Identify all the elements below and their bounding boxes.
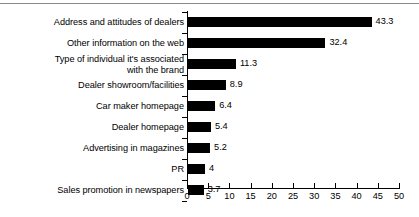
y-axis-tick [182, 117, 187, 118]
category-label: Car maker homepage [4, 101, 184, 112]
x-axis-tick [251, 183, 252, 188]
bar [188, 101, 215, 111]
bar [188, 38, 325, 48]
bar-value-label: 11.3 [240, 58, 257, 69]
y-axis-tick [182, 138, 187, 139]
y-axis-tick [182, 96, 187, 97]
category-label: Advertising in magazines [4, 143, 184, 154]
bar [188, 122, 211, 132]
bar-row: Other information on the web32.4 [0, 33, 419, 54]
bar-row: Dealer homepage5.4 [0, 117, 419, 138]
x-axis-tick [272, 183, 273, 188]
bar-row: Address and attitudes of dealers43.3 [0, 12, 419, 33]
category-label: Other information on the web [4, 38, 184, 49]
bar-value-label: 8.9 [230, 79, 243, 90]
plot-area: Address and attitudes of dealers43.3Othe… [0, 0, 419, 217]
category-label: Dealer showroom/facilities [4, 80, 184, 91]
bar-row: Dealer showroom/facilities8.9 [0, 75, 419, 96]
bar-row: Advertising in magazines5.2 [0, 138, 419, 159]
x-axis-tick [229, 183, 230, 188]
x-axis-tick [378, 183, 379, 188]
bar [188, 59, 236, 69]
y-axis-tick [182, 33, 187, 34]
bar-value-label: 4 [209, 163, 214, 174]
bar-value-label: 6.4 [219, 100, 232, 111]
bar-value-label: 43.3 [376, 16, 394, 27]
x-axis-tick-label: 50 [387, 191, 411, 202]
x-axis-tick [187, 183, 188, 188]
y-axis-tick [182, 12, 187, 13]
y-axis-tick [182, 54, 187, 55]
x-axis-tick [335, 183, 336, 188]
y-axis-tick [182, 75, 187, 76]
bar [188, 17, 372, 27]
bar-row: PR4 [0, 159, 419, 180]
category-label: Type of individual it's associated with … [4, 54, 184, 75]
bar-row: Type of individual it's associated with … [0, 54, 419, 75]
x-axis-tick [357, 183, 358, 188]
bar-value-label: 5.2 [214, 142, 227, 153]
category-label: Dealer homepage [4, 122, 184, 133]
category-label: Address and attitudes of dealers [4, 17, 184, 28]
x-axis-tick [208, 183, 209, 188]
bar [188, 164, 205, 174]
bar-value-label: 32.4 [329, 37, 347, 48]
x-axis-tick [314, 183, 315, 188]
bar [188, 143, 210, 153]
category-label: Sales promotion in newspapers [4, 185, 184, 196]
bar-row: Car maker homepage6.4 [0, 96, 419, 117]
bar [188, 80, 226, 90]
bar-value-label: 5.4 [215, 121, 228, 132]
bar-chart-figure: Address and attitudes of dealers43.3Othe… [0, 0, 419, 217]
x-axis-tick [399, 183, 400, 188]
y-axis-tick [182, 180, 187, 181]
category-label: PR [4, 164, 184, 175]
x-axis-tick [293, 183, 294, 188]
y-axis-tick [182, 159, 187, 160]
